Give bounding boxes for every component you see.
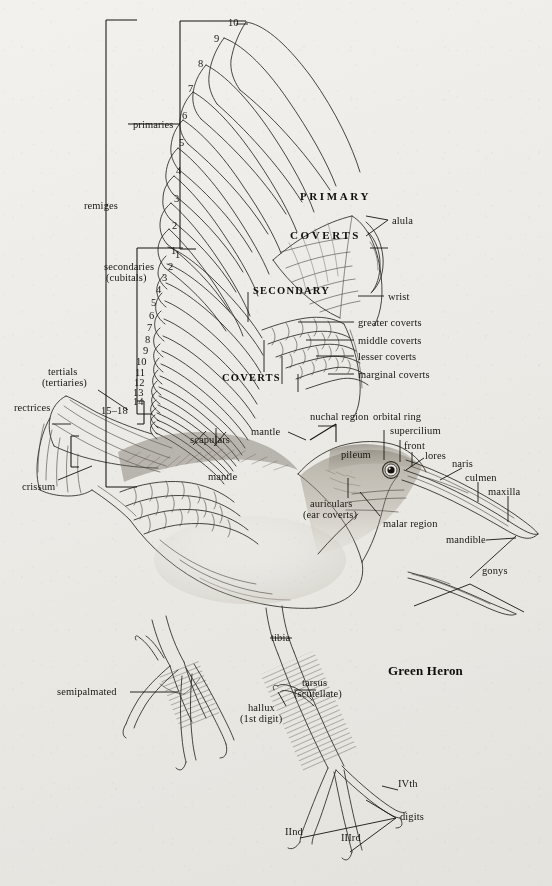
primary-number-9: 9 [214, 33, 219, 44]
label-naris: naris [452, 458, 473, 470]
label-remiges: remiges [84, 200, 118, 212]
secondary-number-7: 7 [147, 322, 152, 333]
label-secondaries-line2: (cubitals) [106, 272, 147, 283]
primary-number-7: 7 [188, 83, 193, 94]
label-middle-coverts: middle coverts [358, 335, 422, 347]
label-auriculars-line2: (ear coverts) [303, 509, 357, 520]
primary-number-8: 8 [198, 58, 203, 69]
label-mantle-lower: mantle [208, 471, 237, 483]
label-tarsus-line1: tarsus [302, 677, 327, 688]
secondary-number-8: 8 [145, 334, 150, 345]
label-malar-region: malar region [383, 518, 438, 530]
secondary-number-1: 1 [175, 249, 180, 260]
label-primaries: primaries [133, 119, 174, 131]
label-greater-coverts: greater coverts [358, 317, 422, 329]
label-hallux-line2: (1st digit) [240, 713, 282, 724]
label-tertials-line2: (tertiaries) [42, 377, 87, 388]
label-orbital-ring: orbital ring [373, 411, 421, 423]
label-nuchal-region: nuchal region [310, 411, 369, 423]
species-name: Green Heron [388, 663, 463, 679]
secondary-number-5: 5 [151, 297, 156, 308]
label-hallux-line1: hallux [248, 702, 275, 713]
legs-and-feet [123, 606, 406, 860]
primary-number-5: 5 [179, 137, 184, 148]
display-secondary-coverts: COVERTS [222, 372, 281, 383]
label-lesser-coverts: lesser coverts [358, 351, 416, 363]
secondary-number-14: 14 [133, 396, 144, 407]
label-crissum: crissum [22, 481, 55, 493]
label-tarsus-line2: (scutellate) [294, 688, 342, 699]
label-mandible: mandible [446, 534, 486, 546]
label-digit-3: IIIrd [341, 832, 361, 844]
label-digit-2: IInd [285, 826, 303, 838]
label-gonys: gonys [482, 565, 508, 577]
figure-page: .s{fill:none;stroke:#2b2722;stroke-width… [0, 0, 552, 886]
secondary-number-2: 2 [168, 261, 173, 272]
secondary-number-6: 6 [149, 310, 154, 321]
label-supercilium: supercilium [390, 425, 441, 437]
label-pileum: pileum [341, 449, 371, 461]
label-marginal-coverts: marginal coverts [358, 369, 430, 381]
label-culmen: culmen [465, 472, 497, 484]
secondary-number-4: 4 [156, 284, 161, 295]
label-digits: digits [400, 811, 424, 823]
label-secondaries-line1: secondaries [104, 261, 154, 272]
primary-number-10: 10 [228, 17, 239, 28]
label-tertials-range: 15–18 [101, 405, 128, 417]
display-primary: PRIMARY [300, 190, 371, 202]
label-mantle-upper: mantle [251, 426, 280, 438]
label-wrist: wrist [388, 291, 410, 303]
bird-anatomy-illustration: .s{fill:none;stroke:#2b2722;stroke-width… [0, 0, 552, 886]
label-tertials-line1: tertials [48, 366, 77, 377]
primary-number-6: 6 [182, 110, 187, 121]
label-maxilla: maxilla [488, 486, 520, 498]
secondary-number-3: 3 [162, 272, 167, 283]
label-auriculars-line1: auriculars [310, 498, 352, 509]
secondary-number-10: 10 [136, 356, 147, 367]
label-semipalmated: semipalmated [57, 686, 117, 698]
label-front: front [404, 440, 425, 452]
display-primary-coverts: COVERTS [290, 229, 361, 241]
label-rectrices: rectrices [14, 402, 50, 414]
label-tibia: tibia [271, 632, 290, 644]
label-alula: alula [392, 215, 413, 227]
secondary-number-9: 9 [143, 345, 148, 356]
label-lores: lores [425, 450, 446, 462]
primary-number-4: 4 [176, 165, 181, 176]
primary-number-3: 3 [174, 193, 179, 204]
primary-number-2: 2 [172, 220, 177, 231]
label-scapulars: scapulars [190, 434, 230, 446]
label-digit-4: IVth [398, 778, 418, 790]
display-secondary: SECONDARY [253, 285, 330, 296]
